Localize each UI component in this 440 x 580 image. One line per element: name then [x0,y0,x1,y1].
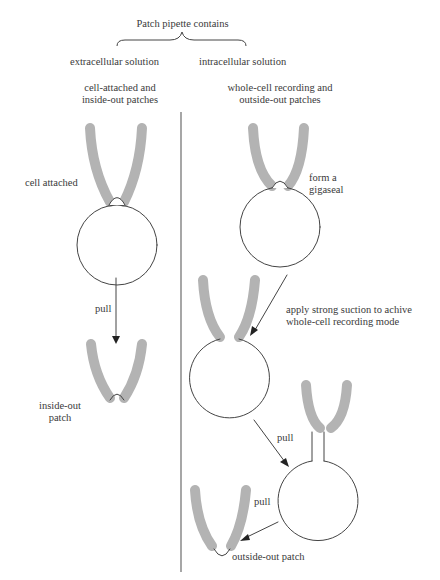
outside-out-forming-cell [278,461,358,541]
pull-mid-label: pull [277,432,293,444]
brace [117,32,246,46]
pipette-outside-out-forming-left [306,385,320,428]
pipette-gigaseal-right [288,128,304,186]
pipette-outside-out-left [195,490,212,546]
pipette-inside-out-right [124,344,142,398]
pipette-inside-out-left [91,344,110,398]
pipette-whole-cell-left [203,280,220,337]
pull-left-label: pull [95,303,111,315]
pull-bottom-label: pull [254,496,270,508]
inside-out-label-1: inside-out [30,400,90,412]
pipette-cell-attached-right [124,128,142,202]
suction-label-1: apply strong suction to achive [286,304,412,316]
pipette-cell-attached-left [90,128,110,202]
gigaseal-label-2: gigaseal [309,184,343,196]
right-column-title-2: outside-out patches [210,94,350,106]
header-title: Patch pipette contains [120,18,245,30]
gigaseal-cell [240,187,320,267]
left-solution-label: extracellular solution [70,56,159,68]
cell-attached-label: cell attached [25,177,78,189]
pipette-outside-out-forming-right [331,385,347,428]
whole-cell-cell [190,339,270,418]
pipette-gigaseal-left [253,128,272,186]
pipette-outside-out-right [231,490,246,546]
outside-out-label: outside-out patch [232,551,305,563]
left-column-title-2: inside-out patches [60,94,180,106]
gigaseal-label-1: form a [309,172,337,184]
right-column-title-1: whole-cell recording and [210,82,350,94]
right-solution-label: intracellular solution [199,56,286,68]
left-column-title-1: cell-attached and [60,82,180,94]
inside-out-label-2: patch [30,412,90,424]
suction-label-2: whole-cell recording mode [286,316,399,328]
cell-attached-cell [77,205,157,285]
